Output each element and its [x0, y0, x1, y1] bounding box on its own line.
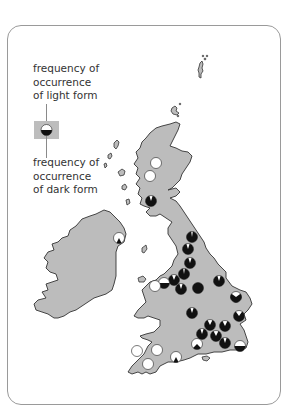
site-marker — [132, 346, 143, 357]
site-marker — [219, 321, 230, 332]
anglesey — [138, 276, 146, 282]
site-marker — [146, 196, 157, 207]
site-marker — [169, 275, 180, 286]
site-marker — [214, 276, 225, 287]
british-isles-map — [0, 0, 296, 417]
site-marker — [186, 232, 197, 243]
site-marker — [176, 284, 187, 295]
site-marker — [231, 292, 242, 303]
site-marker — [196, 329, 207, 340]
isle-of-man — [142, 245, 147, 253]
marker-light-fill — [150, 281, 161, 292]
site-marker — [187, 308, 198, 319]
marker-light-fill — [152, 345, 163, 356]
site-marker — [193, 283, 204, 294]
marker-dark-fill — [235, 346, 246, 352]
site-marker — [182, 244, 193, 255]
legend-symbol — [41, 125, 52, 136]
site-marker — [205, 320, 216, 331]
marker-light-fill — [151, 158, 162, 169]
site-marker — [192, 339, 203, 350]
marker-light-fill — [143, 359, 154, 370]
marker-light-fill — [132, 346, 143, 357]
site-marker — [185, 258, 196, 269]
hebrides — [104, 140, 130, 205]
orkney-islands — [171, 103, 181, 117]
marker-light-fill — [145, 171, 156, 182]
site-marker — [145, 171, 156, 182]
site-marker — [171, 352, 182, 363]
site-marker — [179, 269, 190, 280]
site-marker — [143, 359, 154, 370]
site-marker — [211, 331, 222, 342]
marker-dark-fill — [41, 130, 52, 136]
site-marker — [234, 311, 245, 322]
site-marker — [220, 338, 231, 349]
site-marker — [114, 233, 125, 244]
ireland — [34, 210, 126, 318]
site-marker — [151, 158, 162, 169]
site-marker — [235, 341, 246, 352]
marker-dark-fill — [193, 283, 204, 294]
site-marker — [150, 281, 161, 292]
shetland-islands — [198, 55, 208, 78]
site-marker — [152, 345, 163, 356]
isle-of-wight — [202, 356, 210, 361]
